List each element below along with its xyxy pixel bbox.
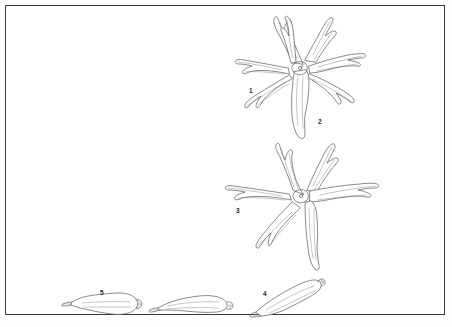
starfish-lower: [225, 143, 378, 270]
arm-2-outline: [292, 70, 309, 138]
label-3: 3: [236, 208, 240, 215]
label-2: 2: [318, 119, 322, 126]
label-1: 1: [249, 88, 253, 95]
starfish-upper: [235, 16, 365, 138]
label-5: 5: [100, 290, 104, 297]
detached-arm-middle: [149, 296, 233, 313]
figure-plate: 1 2 3 4 5: [0, 0, 452, 327]
figure-artwork: [0, 0, 452, 327]
label-4: 4: [263, 291, 267, 298]
detached-arm-right: [250, 279, 325, 317]
